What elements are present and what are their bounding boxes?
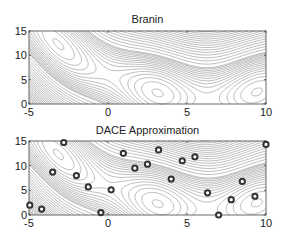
- sample-point-marker: [98, 210, 103, 215]
- y-tick-label: 5: [21, 74, 27, 86]
- x-tick-label: 10: [260, 106, 272, 118]
- sample-point-marker: [180, 158, 185, 163]
- figure-canvas: -50510051015 -50510051015: [0, 0, 286, 243]
- branin-contour-plot: -50510051015: [15, 25, 272, 118]
- sample-point-marker: [156, 147, 161, 152]
- sample-point-marker: [205, 190, 210, 195]
- dace-approximation-plot: -50510051015: [15, 135, 272, 229]
- sample-point-marker: [240, 179, 245, 184]
- sample-point-marker: [109, 187, 114, 192]
- x-tick-label: 10: [260, 217, 272, 229]
- y-tick-label: 0: [21, 98, 27, 110]
- sample-point-marker: [192, 154, 197, 159]
- sample-point-marker: [27, 203, 32, 208]
- sample-point-marker: [229, 197, 234, 202]
- sample-point-marker: [252, 194, 257, 199]
- x-tick-label: 5: [184, 106, 190, 118]
- sample-point-marker: [50, 169, 55, 174]
- y-tick-label: 15: [15, 135, 27, 147]
- y-tick-label: 0: [21, 209, 27, 221]
- y-tick-label: 5: [21, 184, 27, 196]
- sample-point-marker: [169, 176, 174, 181]
- x-tick-label: 5: [184, 217, 190, 229]
- sample-point-marker: [74, 173, 79, 178]
- sample-point-marker: [145, 162, 150, 167]
- sample-point-marker: [121, 151, 126, 156]
- y-tick-label: 10: [15, 160, 27, 172]
- sample-point-marker: [61, 140, 66, 145]
- sample-point-marker: [132, 166, 137, 171]
- x-tick-label: 0: [105, 217, 111, 229]
- y-tick-label: 10: [15, 49, 27, 61]
- sample-point-marker: [86, 184, 91, 189]
- x-tick-label: 0: [105, 106, 111, 118]
- sample-point-marker: [216, 212, 221, 217]
- sample-point-marker: [39, 206, 44, 211]
- y-tick-label: 15: [15, 25, 27, 37]
- sample-point-marker: [263, 142, 268, 147]
